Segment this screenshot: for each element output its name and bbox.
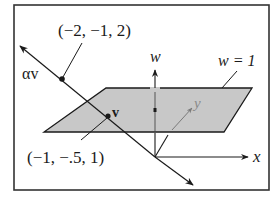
leader-upper-point bbox=[63, 43, 82, 77]
label-w-axis: w bbox=[150, 48, 161, 65]
point-v bbox=[105, 113, 110, 118]
line-alpha-v-lower bbox=[155, 157, 193, 185]
diagram-figure: (−2, −1, 2) αv v (−1, −.5, 1) w w = 1 x … bbox=[0, 0, 272, 197]
label-plane: w = 1 bbox=[218, 52, 255, 69]
w-axis-plane-point bbox=[154, 108, 157, 112]
leader-plane bbox=[222, 71, 237, 88]
label-alpha-v: αv bbox=[22, 65, 38, 82]
label-y-axis: y bbox=[192, 95, 201, 111]
plane-w-equals-1 bbox=[44, 88, 252, 132]
point-minus2-minus1-2 bbox=[59, 76, 65, 82]
diagram-canvas: (−2, −1, 2) αv v (−1, −.5, 1) w w = 1 x … bbox=[0, 0, 272, 197]
y-axis-visible bbox=[155, 135, 168, 157]
label-alpha-v-text: αv bbox=[22, 65, 38, 82]
label-x-axis: x bbox=[252, 147, 261, 166]
label-point-upper: (−2, −1, 2) bbox=[58, 21, 131, 40]
label-v: v bbox=[112, 105, 119, 120]
label-point-lower: (−1, −.5, 1) bbox=[27, 148, 104, 167]
